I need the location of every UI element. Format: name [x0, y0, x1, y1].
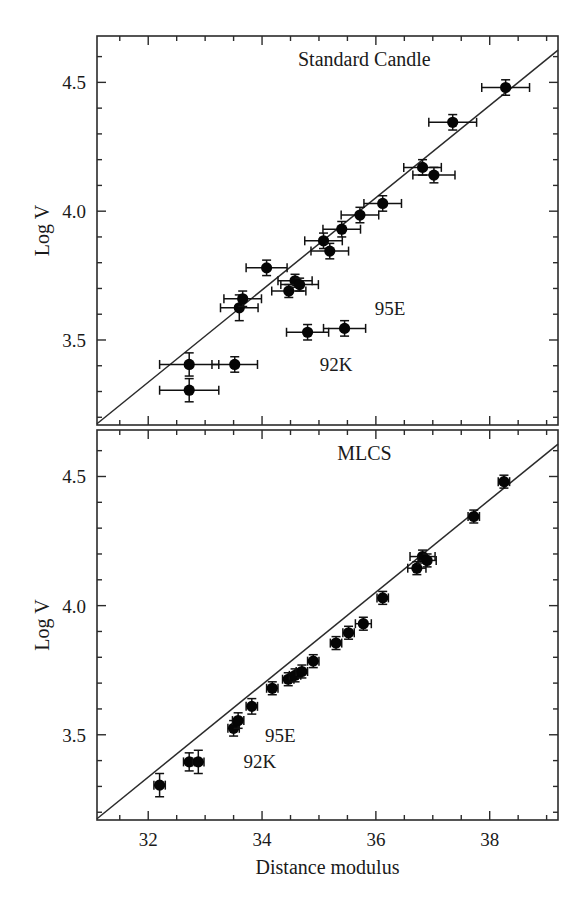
- data-point: [498, 475, 509, 488]
- plot-frame: [97, 430, 558, 820]
- data-point: [330, 637, 341, 650]
- data-point: [323, 221, 361, 236]
- data-marker: [302, 327, 313, 338]
- x-tick-label: 34: [253, 829, 273, 850]
- annotation-label: 95E: [375, 298, 406, 319]
- data-point: [468, 510, 479, 523]
- y-axis-label: Log V: [31, 204, 54, 256]
- annotation-label: 92K: [243, 751, 276, 772]
- data-marker: [308, 656, 319, 667]
- data-point: [224, 291, 262, 306]
- data-marker: [184, 385, 195, 396]
- data-point: [429, 115, 477, 130]
- x-tick-label: 32: [139, 829, 158, 850]
- y-tick-label: 3.5: [62, 725, 86, 746]
- y-axis-label: Log V: [31, 599, 54, 651]
- data-marker: [339, 323, 350, 334]
- x-tick-label: 38: [480, 829, 499, 850]
- y-tick-label: 4.5: [62, 466, 86, 487]
- data-point: [160, 379, 219, 402]
- data-marker: [184, 359, 195, 370]
- x-tick-label: 36: [366, 829, 385, 850]
- data-marker: [233, 715, 244, 726]
- regression-line: [97, 444, 558, 819]
- data-marker: [261, 262, 272, 273]
- y-tick-label: 4.5: [62, 72, 86, 93]
- data-point: [343, 626, 354, 639]
- panel-mlcs: 3.54.04.532343638Distance modulusLog VML…: [31, 430, 558, 878]
- data-marker: [336, 224, 347, 235]
- data-marker: [468, 511, 479, 522]
- data-marker: [354, 209, 365, 220]
- data-marker: [358, 618, 369, 629]
- data-marker: [237, 293, 248, 304]
- data-point: [364, 196, 402, 211]
- data-point: [482, 80, 530, 95]
- data-marker: [447, 117, 458, 128]
- data-marker: [377, 592, 388, 603]
- data-marker: [500, 82, 511, 93]
- data-marker: [229, 359, 240, 370]
- supernova-hubble-diagram: 3.54.04.5Log VStandard Candle92K95E3.54.…: [0, 0, 586, 909]
- data-marker: [330, 637, 341, 648]
- data-point: [305, 233, 343, 248]
- data-point: [377, 591, 388, 604]
- data-marker: [421, 555, 432, 566]
- x-axis-label: Distance modulus: [256, 856, 400, 878]
- data-point: [267, 682, 278, 695]
- y-tick-label: 3.5: [62, 330, 86, 351]
- data-marker: [417, 162, 428, 173]
- figure-container: 3.54.04.5Log VStandard Candle92K95E3.54.…: [0, 0, 586, 909]
- data-marker: [343, 627, 354, 638]
- data-marker: [428, 170, 439, 181]
- data-point: [212, 357, 258, 372]
- data-marker: [154, 780, 165, 791]
- data-point: [193, 750, 204, 773]
- panel-title: Standard Candle: [298, 48, 431, 70]
- data-point: [308, 655, 319, 668]
- data-point: [246, 699, 257, 714]
- annotation-label: 92K: [320, 354, 353, 375]
- data-marker: [498, 476, 509, 487]
- panel-title: MLCS: [337, 442, 391, 464]
- y-tick-label: 4.0: [62, 596, 86, 617]
- y-tick-label: 4.0: [62, 201, 86, 222]
- data-marker: [294, 279, 305, 290]
- data-point: [355, 617, 371, 630]
- annotation-label: 95E: [265, 725, 296, 746]
- data-point: [287, 325, 329, 340]
- data-marker: [318, 235, 329, 246]
- data-marker: [193, 756, 204, 767]
- data-point: [154, 774, 165, 797]
- data-point: [324, 321, 366, 336]
- panel-standard-candle: 3.54.04.5Log VStandard Candle92K95E: [31, 36, 558, 425]
- data-marker: [411, 563, 422, 574]
- data-marker: [267, 683, 278, 694]
- data-point: [160, 353, 219, 376]
- data-marker: [296, 666, 307, 677]
- data-point: [246, 260, 287, 275]
- data-marker: [246, 701, 257, 712]
- data-marker: [324, 246, 335, 257]
- data-marker: [377, 198, 388, 209]
